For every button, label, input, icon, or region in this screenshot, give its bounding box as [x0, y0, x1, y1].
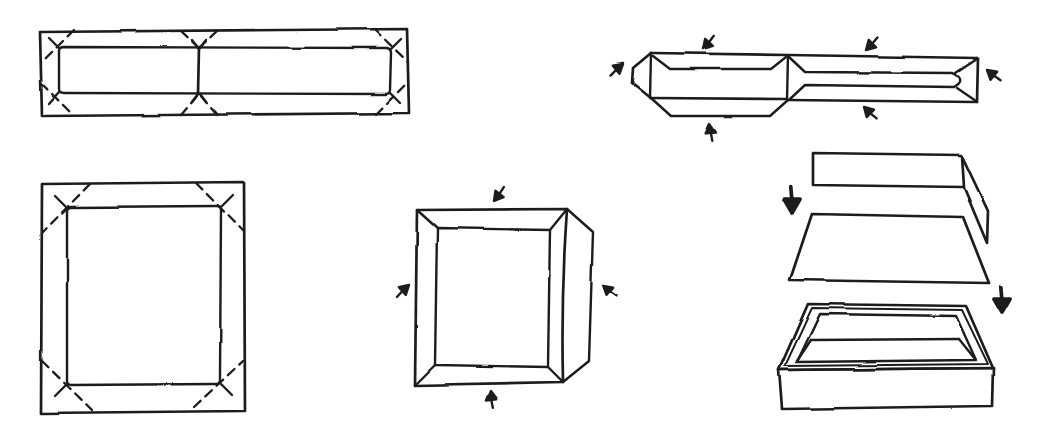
panel-strip-crease-pattern	[40, 29, 409, 116]
fold-direction-arrow	[607, 59, 627, 78]
fold-direction-arrow	[984, 66, 1004, 85]
fold-direction-arrow	[860, 103, 879, 122]
fold-direction-arrow	[699, 33, 718, 53]
panel-strip-folding-3d	[632, 53, 978, 116]
diagram-canvas	[0, 0, 1040, 442]
fold-direction-arrow	[600, 281, 620, 300]
fold-line-dashed	[376, 82, 408, 114]
panel-rim-and-base-pieces	[790, 153, 989, 283]
fold-line-dashed	[41, 83, 73, 115]
press-down-arrow	[994, 287, 1010, 313]
arrows-layer	[393, 33, 1010, 409]
panel-assembled-tray	[779, 304, 993, 409]
fold-direction-arrow	[490, 184, 509, 204]
folding-diagram	[0, 0, 1040, 442]
fold-direction-arrow	[705, 124, 717, 142]
fold-direction-arrow	[393, 281, 413, 300]
press-down-arrow	[784, 187, 800, 213]
panel-square-crease-pattern	[41, 182, 245, 413]
fold-direction-arrow	[862, 34, 881, 53]
panel-square-folding-3d	[415, 209, 593, 385]
fold-direction-arrow	[485, 390, 497, 408]
